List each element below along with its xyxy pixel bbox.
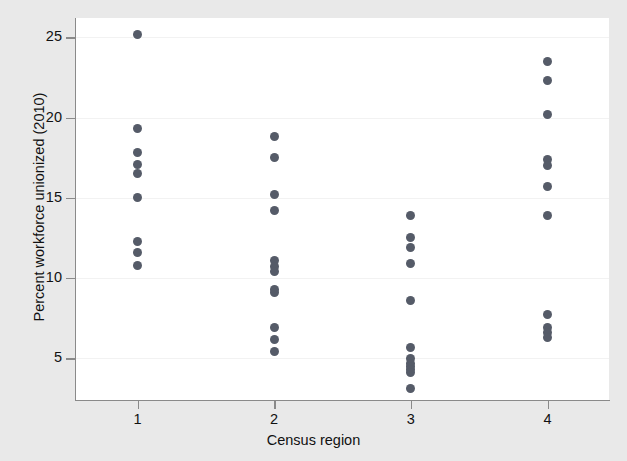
data-point: [543, 161, 552, 170]
x-tick-mark-3: [411, 401, 412, 409]
data-point: [270, 335, 279, 344]
data-point: [270, 267, 279, 276]
data-point: [543, 57, 552, 66]
data-point: [133, 148, 142, 157]
y-tick-mark-5: [66, 358, 75, 359]
x-tick-label-4: 4: [528, 411, 568, 427]
data-point: [133, 193, 142, 202]
y-tick-mark-10: [66, 278, 75, 279]
x-axis-title: Census region: [0, 432, 627, 448]
gridline-y-20: [76, 118, 609, 119]
x-tick-label-1: 1: [118, 411, 158, 427]
data-point: [270, 288, 279, 297]
x-axis-line: [75, 400, 610, 401]
data-point: [543, 333, 552, 342]
data-point: [543, 211, 552, 220]
data-point: [270, 132, 279, 141]
data-point: [406, 243, 415, 252]
gridline-y-5: [76, 358, 609, 359]
y-tick-mark-15: [66, 198, 75, 199]
data-point: [406, 296, 415, 305]
x-tick-label-3: 3: [391, 411, 431, 427]
data-point: [406, 384, 415, 393]
data-point: [133, 237, 142, 246]
data-point: [406, 343, 415, 352]
data-point: [406, 259, 415, 268]
x-tick-label-2: 2: [254, 411, 294, 427]
y-axis-line: [75, 18, 76, 401]
data-point: [133, 261, 142, 270]
y-tick-mark-25: [66, 37, 75, 38]
gridline-y-25: [76, 37, 609, 38]
data-point: [270, 190, 279, 199]
data-point: [133, 160, 142, 169]
data-point: [543, 76, 552, 85]
gridline-y-10: [76, 278, 609, 279]
data-point: [133, 248, 142, 257]
x-tick-mark-4: [548, 401, 549, 409]
data-point: [270, 153, 279, 162]
gridline-y-15: [76, 198, 609, 199]
plot-area: [76, 18, 609, 400]
data-point: [270, 323, 279, 332]
data-point: [406, 211, 415, 220]
data-point: [543, 110, 552, 119]
data-point: [133, 124, 142, 133]
scatter-plot-figure: 510152025 1234 Census region Percent wor…: [0, 0, 627, 461]
y-tick-mark-20: [66, 118, 75, 119]
data-point: [406, 368, 415, 377]
data-point: [133, 169, 142, 178]
data-point: [543, 310, 552, 319]
data-point: [270, 206, 279, 215]
x-tick-mark-1: [138, 401, 139, 409]
data-point: [133, 30, 142, 39]
data-point: [406, 233, 415, 242]
data-point: [543, 182, 552, 191]
y-axis-title: Percent workforce unionized (2010): [31, 16, 47, 398]
x-tick-mark-2: [274, 401, 275, 409]
data-point: [270, 347, 279, 356]
